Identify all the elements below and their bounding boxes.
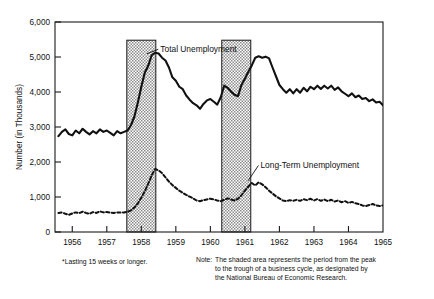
data-series-group	[58, 53, 383, 215]
recession-band	[127, 40, 156, 232]
x-tick-label: 1956	[63, 238, 82, 247]
note-line: the National Bureau of Economic Research…	[215, 274, 347, 281]
note-label: Note:	[196, 256, 212, 263]
x-tick-label: 1964	[339, 238, 358, 247]
note-body: The shaded area represents the period fr…	[215, 256, 377, 281]
y-tick-label: 0	[45, 228, 50, 237]
y-tick-label: 6,000	[30, 18, 51, 27]
x-axis-tick-labels: 1956195719581959196019611962196319641965	[63, 238, 392, 247]
recession-band	[222, 40, 251, 232]
series-line	[58, 53, 383, 136]
y-axis-ticks	[55, 22, 61, 232]
series-line	[58, 169, 383, 215]
x-tick-label: 1963	[305, 238, 324, 247]
chart-canvas: 01,0002,0003,0004,0005,0006,000 19561957…	[0, 0, 434, 299]
y-tick-label: 1,000	[30, 193, 51, 202]
series-annotation: Long-Term Unemployment	[248, 160, 360, 181]
x-tick-label: 1960	[201, 238, 220, 247]
annotation-label: Total Unemployment	[160, 44, 237, 54]
x-tick-label: 1961	[236, 238, 255, 247]
recession-band-rect	[127, 40, 156, 232]
x-tick-label: 1959	[167, 238, 186, 247]
x-tick-label: 1962	[270, 238, 289, 247]
unemployment-chart-figure: 01,0002,0003,0004,0005,0006,000 19561957…	[0, 0, 434, 299]
y-axis-tick-labels: 01,0002,0003,0004,0005,0006,000	[30, 18, 51, 237]
footnote-lasting-15-weeks: *Lasting 15 weeks or longer.	[62, 258, 148, 266]
annotation-label: Long-Term Unemployment	[260, 160, 359, 170]
x-tick-label: 1957	[98, 238, 117, 247]
note-line: The shaded area represents the period fr…	[215, 256, 377, 264]
y-axis-title: Number (in Thousands)	[15, 84, 24, 170]
y-tick-label: 2,000	[30, 158, 51, 167]
note-line: to the trough of a business cycle, as de…	[215, 265, 368, 273]
recession-shading-group	[127, 40, 251, 232]
y-tick-label: 4,000	[30, 88, 51, 97]
y-tick-label: 5,000	[30, 53, 51, 62]
y-tick-label: 3,000	[30, 123, 51, 132]
x-tick-label: 1965	[374, 238, 393, 247]
series-annotation: Total Unemployment	[147, 44, 237, 54]
x-axis-ticks	[72, 226, 348, 232]
recession-band-rect	[222, 40, 251, 232]
x-tick-label: 1958	[132, 238, 151, 247]
